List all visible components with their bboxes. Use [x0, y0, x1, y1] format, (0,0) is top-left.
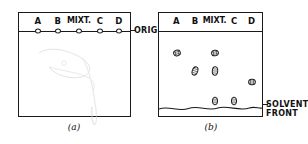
- panel-b-spot-mixt-2: [209, 64, 220, 77]
- panel-a-lane-label-mixt: MIXT.: [67, 17, 91, 25]
- panel-b-spot-mixt-1: [209, 48, 220, 58]
- panel-a-origin-spot-b: [55, 28, 61, 33]
- panel-b-lane-header-row: A B MIXT. C D: [159, 13, 262, 30]
- chromatography-figure: A B MIXT. C D ORIGIN (a) A B MIXT. C D: [0, 0, 308, 144]
- panel-b-lane-label-d: D: [248, 17, 255, 26]
- panel-b-lane-label-a: A: [173, 17, 180, 26]
- panel-a-lane-label-d: D: [115, 17, 122, 26]
- panel-a-origin-spot-d: [116, 28, 122, 33]
- panel-b-chromatogram-after: A B MIXT. C D: [158, 12, 263, 117]
- panel-a-lane-label-a: A: [34, 17, 41, 26]
- panel-b-solvent-front-line: [159, 103, 262, 115]
- panel-a-lane-label-c: C: [97, 17, 103, 26]
- panel-a-origin-spot-mixt: [76, 28, 82, 33]
- panel-b-caption: (b): [205, 122, 218, 132]
- panel-b-spot-d-1: [246, 77, 257, 87]
- panel-a-origin-spot-a: [35, 28, 41, 33]
- solvent-front-label: SOLVENT FRONT: [266, 100, 308, 118]
- panel-b-origin-line: [159, 31, 262, 32]
- panel-b-lane-label-mixt: MIXT.: [203, 17, 227, 25]
- panel-a-origin-spot-c: [97, 28, 103, 33]
- panel-b-spot-a-1: [171, 48, 182, 58]
- panel-a-chromatogram-before: A B MIXT. C D: [18, 12, 131, 117]
- panel-b-lane-label-c: C: [231, 17, 237, 26]
- panel-b-lane-label-b: B: [192, 17, 199, 26]
- panel-b-spot-b-1: [190, 64, 201, 77]
- panel-a-lane-label-b: B: [55, 17, 62, 26]
- panel-a-caption: (a): [68, 122, 80, 132]
- pencil-smudge-marks: [37, 25, 150, 130]
